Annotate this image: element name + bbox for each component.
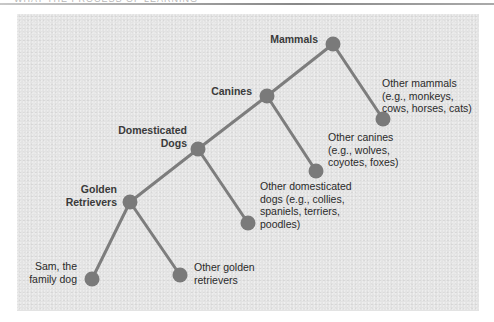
label-line: Other canines — [328, 131, 399, 144]
label-line: Sam, the — [20, 260, 77, 273]
label-line: Retrievers — [40, 196, 117, 209]
edge-golden-retrievers-sam — [92, 202, 130, 279]
label-line: family dog — [20, 273, 77, 286]
label-line: Dogs — [100, 137, 187, 150]
label-line: Mammals — [250, 33, 318, 46]
label-golden-retrievers: Golden Retrievers — [40, 183, 117, 208]
label-canines: Canines — [190, 85, 252, 98]
label-line: Other golden — [194, 261, 255, 274]
label-other-domesticated-dogs: Other domesticated dogs (e.g., collies, … — [260, 180, 352, 230]
label-line: cows, horses, cats) — [382, 102, 472, 115]
edge-golden-retrievers-other-golden-retrievers — [130, 202, 180, 275]
label-line: Other domesticated — [260, 180, 352, 193]
edge-canines-domesticated-dogs — [198, 96, 267, 149]
node-canines — [260, 89, 275, 104]
label-line: coyotes, foxes) — [328, 156, 399, 169]
label-domesticated-dogs: Domesticated Dogs — [100, 124, 187, 149]
node-other-canines — [309, 164, 324, 179]
label-line: poodles) — [260, 218, 352, 231]
node-other-golden-retrievers — [173, 268, 188, 283]
label-other-golden-retrievers: Other golden retrievers — [194, 261, 255, 286]
node-domesticated-dogs — [191, 142, 206, 157]
edge-domesticated-dogs-golden-retrievers — [130, 149, 198, 202]
label-line: (e.g., monkeys, — [382, 90, 472, 103]
node-golden-retrievers — [123, 195, 138, 210]
label-line: Domesticated — [100, 124, 187, 137]
label-mammals: Mammals — [250, 33, 318, 46]
node-other-domesticated-dogs — [241, 216, 256, 231]
label-line: spaniels, terriers, — [260, 205, 352, 218]
label-line: retrievers — [194, 274, 255, 287]
label-line: dogs (e.g., collies, — [260, 193, 352, 206]
edge-canines-other-canines — [267, 96, 316, 171]
label-other-mammals: Other mammals (e.g., monkeys, cows, hors… — [382, 77, 472, 115]
edge-domesticated-dogs-other-domesticated-dogs — [198, 149, 248, 223]
label-line: Canines — [190, 85, 252, 98]
label-sam: Sam, the family dog — [20, 260, 77, 285]
label-other-canines: Other canines (e.g., wolves, coyotes, fo… — [328, 131, 399, 169]
label-line: (e.g., wolves, — [328, 144, 399, 157]
node-sam — [85, 272, 100, 287]
edge-mammals-other-mammals — [333, 44, 383, 119]
label-line: Golden — [40, 183, 117, 196]
label-line: Other mammals — [382, 77, 472, 90]
node-mammals — [326, 37, 341, 52]
edge-mammals-canines — [267, 44, 333, 96]
